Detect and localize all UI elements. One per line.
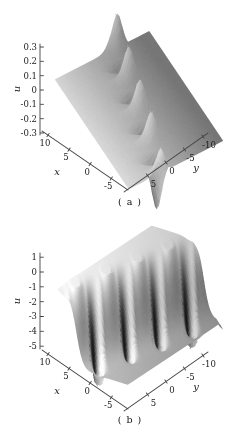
b-y-tick-label--10: -10 [202,359,216,369]
b-y-axis-label: y [193,381,199,392]
b-y-tick-label--5: -5 [186,372,194,382]
a-u-axis-label: u [11,86,22,92]
b-u-tick-label--1: -1 [29,282,37,292]
a-x-tick-label-0: 0 [84,167,89,177]
b-u-axis-label: u [11,298,22,304]
b-y-tick-label-0: 0 [169,385,174,395]
caption-a: ( a ) [118,196,142,207]
a-y-tick-label-0: 0 [169,166,174,176]
a-y-axis-label: y [193,162,199,173]
figure-page: { "palette": { "background": "#ffffff", … [0,0,239,438]
caption-b: ( b ) [118,414,143,425]
b-u-tick-label--4: -4 [29,326,37,336]
a-x-tick-label--5: -5 [104,181,112,191]
b-u-tick-label-1: 1 [32,252,37,262]
a-u-tick-label-0.3: 0.3 [23,42,37,52]
b-u-tick-label--2: -2 [29,297,37,307]
a-y-tick-label-5: 5 [151,179,156,189]
figure-b: u x y ( b ) 10-1-2-3-4-51050-550-5-10 [0,219,239,438]
b-u-tick-label-0: 0 [32,267,37,277]
a-y-tick-label--5: -5 [186,153,194,163]
a-u-tick-label-0: 0 [32,85,37,95]
figure-a: u x y ( a ) 0.30.20.10-0.1-0.2-0.31050-5… [0,0,239,219]
b-x-tick-label-10: 10 [40,357,51,367]
b-x-tick-label-5: 5 [63,371,68,381]
a-u-tick-label--0.1: -0.1 [21,99,37,109]
b-u-tick-label--5: -5 [29,341,37,351]
a-x-tick-label-10: 10 [40,138,51,148]
a-x-tick-label-5: 5 [63,152,68,162]
b-x-tick-label--5: -5 [104,400,112,410]
surface-plot-a-canvas [0,0,239,219]
a-y-tick-label--10: -10 [202,140,216,150]
b-x-axis-label: x [54,385,60,396]
b-u-tick-label--3: -3 [29,311,37,321]
a-x-axis-label: x [54,166,60,177]
a-u-tick-label--0.3: -0.3 [21,128,37,138]
b-x-tick-label-0: 0 [84,386,89,396]
a-u-tick-label--0.2: -0.2 [21,114,37,124]
a-u-tick-label-0.2: 0.2 [23,56,37,66]
b-y-tick-label-5: 5 [151,398,156,408]
a-u-tick-label-0.1: 0.1 [23,71,37,81]
